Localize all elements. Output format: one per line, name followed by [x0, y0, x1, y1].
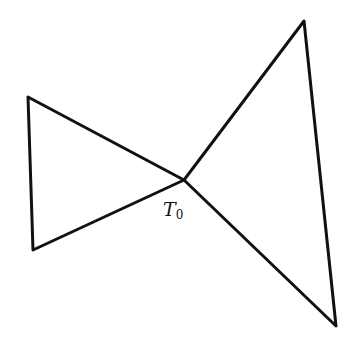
left-triangle	[28, 97, 184, 250]
label-main: T	[163, 198, 176, 220]
bowtie-diagram	[0, 0, 352, 338]
vertex-label-t0: T0	[163, 200, 183, 221]
right-triangle	[184, 21, 336, 326]
label-subscript: 0	[176, 208, 184, 222]
